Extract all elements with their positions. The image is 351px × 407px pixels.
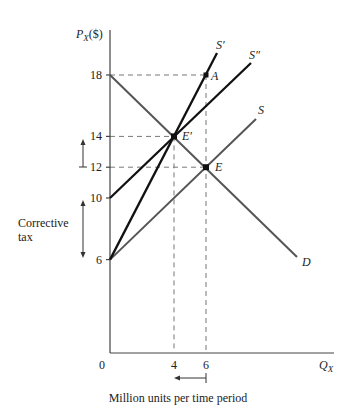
y-axis-title: PX($)	[75, 27, 103, 43]
axes	[106, 30, 334, 353]
x-axis-symbol: Q	[319, 358, 328, 372]
y-tick-label-10: 10	[90, 191, 102, 205]
y-tick-label-14: 14	[90, 129, 102, 143]
point-E-prime-label: E′	[181, 129, 192, 143]
x-tick-label-4: 4	[171, 358, 177, 372]
y-tick-label-6: 6	[96, 253, 102, 267]
curve-D-label: D	[301, 255, 311, 269]
point-A-marker	[204, 73, 209, 78]
y-tick-label-12: 12	[90, 160, 102, 174]
supply-curve-S-double-prime	[110, 63, 251, 198]
point-E-label: E	[214, 160, 223, 174]
x-tick-label-0: 0	[99, 358, 105, 372]
point-A-label: A	[210, 69, 219, 83]
curve-S-prime-label: S′	[216, 38, 225, 52]
price-increase-arrow	[79, 139, 87, 167]
x-axis-subscript: X	[327, 364, 334, 374]
curve-S-label: S	[258, 103, 264, 117]
point-E-marker	[203, 164, 209, 170]
curve-S-double-prime-label: S″	[249, 48, 261, 62]
point-E-prime-marker	[171, 133, 177, 139]
corrective-tax-label-line2: tax	[18, 230, 33, 244]
corrective-tax-label-line1: Corrective	[18, 216, 69, 230]
y-axis-unit: ($)	[89, 27, 103, 41]
corrective-tax-arrow	[81, 200, 86, 258]
y-tick-label-18: 18	[90, 68, 102, 82]
chart: A E′ E S′ S″ S D PX($) 18 14 12 10 6 0 4…	[0, 0, 351, 407]
x-axis-title: QX	[319, 358, 334, 374]
x-tick-label-6: 6	[203, 358, 209, 372]
supply-curve-S-prime	[110, 53, 217, 260]
x-axis-caption: Million units per time period	[109, 391, 248, 405]
quantity-decrease-arrow	[174, 373, 206, 383]
